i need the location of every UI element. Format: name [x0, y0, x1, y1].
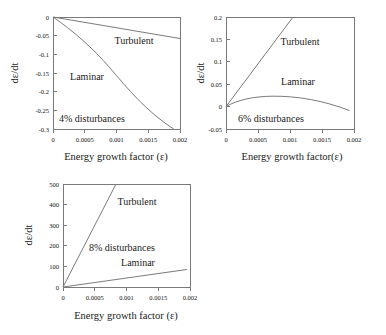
- y-axis-ticks: [53, 17, 57, 129]
- x-axis-ticks: [53, 129, 180, 133]
- series-line-turbulent: [226, 17, 293, 107]
- x-axis-ticks: [63, 287, 190, 291]
- y-tick-label: 0: [219, 103, 222, 110]
- y-tick-label: 100: [49, 263, 59, 270]
- figure-root: 0 -0.05 -0.1 -0.15 -0.2 -0.25 -0.3 0 0.0…: [0, 0, 386, 335]
- y-tick-label: 300: [49, 222, 59, 229]
- series-label-laminar: Laminar: [281, 76, 316, 87]
- series-label-turbulent: Turbulent: [280, 36, 319, 47]
- y-tick-label: 0: [56, 284, 59, 291]
- x-tick-label: 0.001: [109, 136, 124, 143]
- y-axis-title: dε/dt: [9, 63, 20, 84]
- annotation-disturbance-level: 6% disturbances: [238, 113, 304, 124]
- annotation-disturbance-level: 8% disturbances: [89, 242, 155, 253]
- x-tick-label: 0.002: [183, 294, 198, 301]
- y-tick-label: -0.25: [35, 107, 49, 114]
- x-tick-label: 0.0015: [149, 294, 167, 301]
- y-tick-label: 500: [49, 181, 59, 188]
- y-tick-label: -0.05: [35, 32, 49, 39]
- y-tick-label: 0.15: [211, 36, 222, 43]
- x-tick-label: 0.0005: [86, 294, 104, 301]
- y-axis-title: dε/dt: [23, 225, 34, 246]
- chart-svg-6-percent: 0.2 0.15 0.1 0.05 0 -0.05 0 0.0005 0.001…: [196, 0, 386, 168]
- x-axis-title: Energy growth factor (ε): [74, 310, 178, 322]
- x-tick-label: 0: [61, 294, 64, 301]
- series-label-laminar: Laminar: [121, 257, 156, 268]
- chart-panel-6-percent: 0.2 0.15 0.1 0.05 0 -0.05 0 0.0005 0.001…: [196, 0, 386, 168]
- series-line-laminar: [226, 96, 350, 110]
- x-axis-ticks: [226, 129, 354, 133]
- y-tick-label: 0.1: [214, 58, 222, 65]
- x-tick-label: 0.001: [119, 294, 134, 301]
- y-tick-label: 200: [49, 242, 59, 249]
- chart-svg-8-percent: 500 400 300 200 100 0 0 0.0005 0.001 0.0…: [20, 167, 250, 335]
- series-line-laminar: [63, 270, 187, 288]
- y-tick-label: -0.2: [39, 88, 49, 95]
- chart-panel-8-percent: 500 400 300 200 100 0 0 0.0005 0.001 0.0…: [20, 167, 250, 335]
- x-tick-label: 0.001: [283, 136, 298, 143]
- x-tick-label: 0.002: [173, 136, 188, 143]
- x-tick-label: 0.0005: [76, 136, 94, 143]
- x-tick-label: 0.0015: [139, 136, 157, 143]
- series-line-turbulent: [63, 184, 116, 287]
- series-label-laminar: Laminar: [70, 71, 105, 82]
- chart-svg-4-percent: 0 -0.05 -0.1 -0.15 -0.2 -0.25 -0.3 0 0.0…: [0, 0, 200, 168]
- x-axis-title: Energy growth factor (ε): [64, 151, 168, 163]
- x-tick-label: 0.0015: [313, 136, 331, 143]
- y-axis-ticks: [226, 17, 230, 129]
- y-tick-label: 0: [46, 14, 49, 21]
- y-tick-label: 0.05: [211, 81, 222, 88]
- x-axis-title: Energy growth factor(ε): [241, 151, 343, 163]
- x-tick-label: 0: [51, 136, 54, 143]
- y-tick-label: -0.15: [35, 70, 49, 77]
- y-tick-label: -0.3: [39, 126, 49, 133]
- series-label-turbulent: Turbulent: [117, 196, 156, 207]
- x-tick-label: 0.002: [347, 136, 362, 143]
- y-axis-ticks: [63, 184, 67, 287]
- y-tick-label: -0.1: [39, 51, 49, 58]
- series-label-turbulent: Turbulent: [114, 35, 153, 46]
- y-tick-label: 400: [49, 201, 59, 208]
- y-axis-title: dε/dt: [195, 63, 206, 84]
- annotation-disturbance-level: 4% disturbances: [59, 113, 125, 124]
- x-tick-label: 0.0005: [249, 136, 267, 143]
- chart-panel-4-percent: 0 -0.05 -0.1 -0.15 -0.2 -0.25 -0.3 0 0.0…: [0, 0, 200, 168]
- x-tick-label: 0: [224, 136, 227, 143]
- y-tick-label: -0.05: [208, 126, 222, 133]
- y-tick-label: 0.2: [214, 14, 222, 21]
